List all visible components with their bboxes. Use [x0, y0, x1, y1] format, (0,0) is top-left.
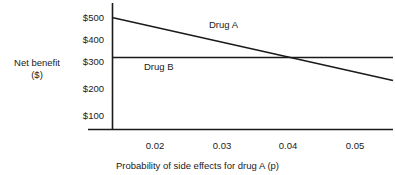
- y-tick-label-500: $500: [64, 12, 104, 23]
- y-axis-title-line1: Net benefit: [2, 57, 72, 69]
- y-axis-title-line2: ($): [2, 69, 72, 81]
- series-label-drug-b: Drug B: [144, 61, 174, 72]
- y-tick-label-200: $200: [64, 83, 104, 94]
- x-tick-label-004: 0.04: [268, 140, 308, 151]
- x-tick-label-003: 0.03: [202, 140, 242, 151]
- net-benefit-chart: Net benefit ($) $500 $400 $300 $200 $100…: [0, 0, 395, 175]
- y-tick-label-300: $300: [64, 56, 104, 67]
- y-axis-title: Net benefit ($): [2, 57, 72, 81]
- y-tick-label-100: $100: [64, 110, 104, 121]
- y-tick-label-400: $400: [64, 34, 104, 45]
- x-tick-label-002: 0.02: [135, 140, 175, 151]
- series-label-drug-a: Drug A: [209, 19, 238, 30]
- x-tick-label-005: 0.05: [335, 140, 375, 151]
- x-axis-title: Probability of side effects for drug A (…: [0, 160, 395, 171]
